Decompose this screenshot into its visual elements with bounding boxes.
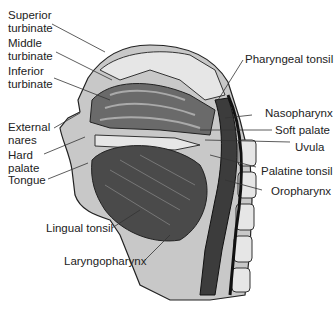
label-pharyngeal-tonsil: Pharyngeal tonsil	[245, 53, 333, 66]
label-uvula: Uvula	[295, 141, 324, 154]
label-oropharynx: Oropharynx	[271, 185, 331, 198]
diagram-canvas: Superior turbinate Middle turbinate Infe…	[0, 0, 334, 309]
label-inferior-turbinate: Inferior turbinate	[8, 65, 53, 90]
label-lingual-tonsil: Lingual tonsil	[46, 222, 113, 235]
label-palatine-tonsil: Palatine tonsil	[261, 165, 333, 178]
label-soft-palate: Soft palate	[275, 124, 330, 137]
label-external-nares: External nares	[8, 121, 50, 146]
label-laryngopharynx: Laryngopharynx	[64, 255, 146, 268]
label-hard-palate: Hard palate	[8, 149, 39, 174]
label-nasopharynx: Nasopharynx	[265, 107, 333, 120]
label-tongue: Tongue	[8, 174, 46, 187]
label-superior-turbinate: Superior turbinate	[8, 9, 53, 34]
label-middle-turbinate: Middle turbinate	[8, 37, 53, 62]
